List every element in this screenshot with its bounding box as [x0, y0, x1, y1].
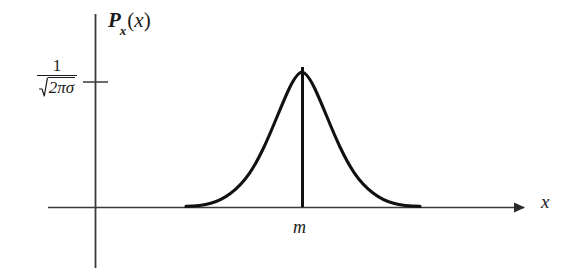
- peak-value-annotation: 1 2πσ: [22, 57, 92, 96]
- y-axis-label-argument: x: [134, 8, 143, 32]
- x-axis-label: x: [541, 192, 549, 211]
- peak-value-numerator: 1: [37, 57, 77, 75]
- gaussian-pdf-figure: Px(x) x m 1 2πσ: [0, 0, 573, 276]
- peak-value-denominator: 2πσ: [37, 76, 77, 96]
- radical-hook: [39, 77, 48, 96]
- y-axis-label-subscript: x: [120, 23, 127, 38]
- y-axis-label: Px(x): [108, 10, 151, 34]
- mean-label: m: [293, 218, 306, 236]
- y-axis-label-base: P: [108, 8, 121, 32]
- y-axis-label-paren-close: ): [144, 8, 151, 32]
- radicand-text: 2πσ: [48, 77, 75, 96]
- peak-value-fraction: 1 2πσ: [37, 57, 77, 96]
- square-root-icon: 2πσ: [39, 77, 75, 96]
- plot-canvas: [0, 0, 573, 276]
